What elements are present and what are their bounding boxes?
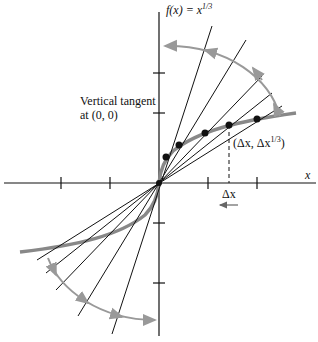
lower-arc <box>48 258 155 320</box>
point-label: (Δx, Δx1/3) <box>233 135 285 151</box>
function-title: f(x) = x1/3 <box>166 2 212 18</box>
cube-root-diagram <box>0 0 318 342</box>
annotation-line2: at (0, 0) <box>80 108 118 123</box>
upper-arc <box>165 46 280 116</box>
x-axis-label: x <box>305 168 310 183</box>
dx-label: Δx <box>222 187 236 202</box>
annotation-line1: Vertical tangent <box>80 94 156 109</box>
